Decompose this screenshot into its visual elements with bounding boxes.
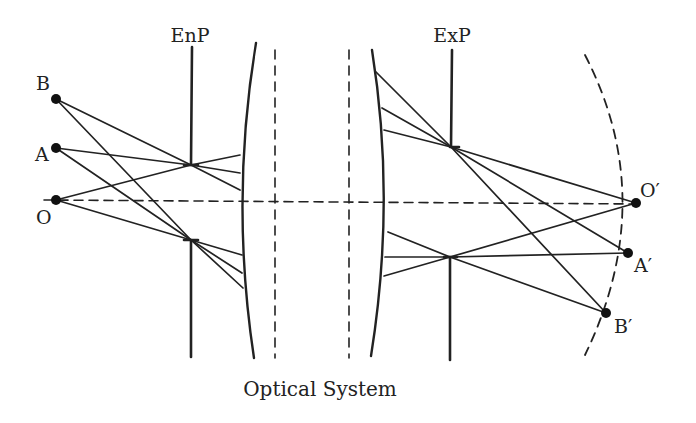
object-rays xyxy=(56,99,243,288)
point-b xyxy=(51,94,61,104)
label-a: A xyxy=(34,143,49,165)
point-o xyxy=(51,195,61,205)
label-enp: EnP xyxy=(171,24,210,46)
point-b-prime xyxy=(601,308,611,318)
image-rays xyxy=(376,72,636,313)
label-b: B xyxy=(36,72,50,94)
point-a xyxy=(51,143,61,153)
label-exp: ExP xyxy=(433,24,471,46)
points xyxy=(51,94,641,318)
caption: Optical System xyxy=(243,377,397,401)
optical-system-diagram: EnP ExP B A O O′ A′ B′ Optical System xyxy=(0,0,696,423)
label-o: O xyxy=(36,206,52,228)
label-b-prime: B′ xyxy=(614,315,632,337)
label-o-prime: O′ xyxy=(640,179,660,201)
entrance-pupil-upper xyxy=(191,47,192,165)
exit-pupil-upper xyxy=(451,50,452,147)
front-lens-surface xyxy=(242,43,256,358)
label-a-prime: A′ xyxy=(633,254,652,276)
point-a-prime xyxy=(623,248,633,258)
